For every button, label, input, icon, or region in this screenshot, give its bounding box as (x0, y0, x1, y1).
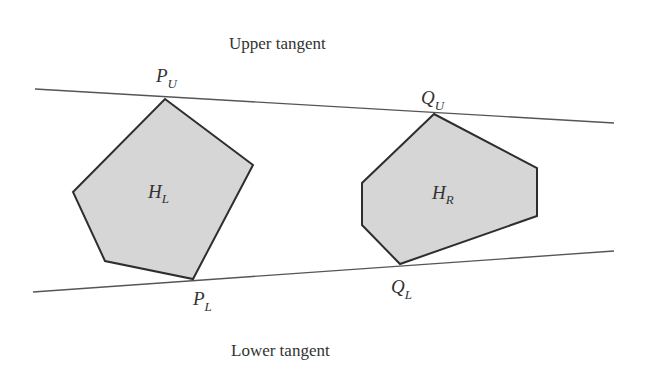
convex-hull-merge-diagram: Upper tangent Lower tangent HL HR PU QU … (0, 0, 647, 388)
left-hull-polygon (73, 99, 253, 279)
q-lower-label: QL (391, 276, 412, 302)
p-lower-label: PL (192, 288, 212, 314)
q-upper-label: QU (421, 87, 446, 113)
q-upper-main: Q (421, 87, 435, 108)
left-hull-label-main: H (147, 181, 163, 202)
left-hull-label-sub: L (161, 191, 169, 206)
right-hull-label-main: H (431, 182, 447, 203)
q-lower-main: Q (391, 276, 405, 297)
p-upper-main: P (155, 65, 168, 86)
lower-tangent-caption: Lower tangent (231, 341, 330, 360)
p-lower-sub: L (204, 299, 212, 314)
p-upper-label: PU (155, 65, 179, 91)
q-lower-sub: L (404, 287, 412, 302)
right-hull-label-sub: R (445, 192, 454, 207)
p-lower-main: P (192, 288, 205, 309)
upper-tangent-caption: Upper tangent (229, 34, 326, 53)
upper-tangent-line (35, 89, 614, 123)
right-hull-polygon (362, 114, 537, 264)
q-upper-sub: U (435, 98, 446, 113)
p-upper-sub: U (168, 76, 179, 91)
